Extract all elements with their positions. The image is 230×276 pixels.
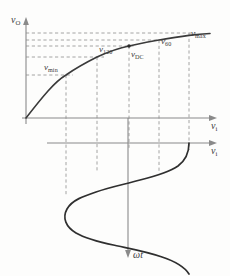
- y-axis-subscript: O: [15, 19, 20, 26]
- y-axis-label: vO: [11, 15, 20, 25]
- v120-subscript: 120: [103, 49, 112, 55]
- label-v60: v60: [161, 37, 171, 46]
- vmin-subscript: min: [48, 67, 58, 73]
- time-axis-group: [125, 118, 131, 258]
- mid-plot-axis: [47, 140, 217, 146]
- x-axis-mid-label: vi: [211, 146, 217, 156]
- figure-canvas: [0, 0, 230, 276]
- label-vdc: vDC: [131, 50, 144, 59]
- label-vmax: vmax: [191, 29, 206, 38]
- omega-t-symbol: ωt: [133, 249, 143, 260]
- v60-subscript: 60: [165, 41, 171, 47]
- omega-t-label: ωt: [133, 250, 143, 260]
- vmax-subscript: max: [195, 33, 206, 39]
- x-axis-top-label: vi: [211, 121, 217, 131]
- y-axis-arrowhead: [23, 17, 29, 25]
- transfer-characteristic-curve: [26, 34, 210, 119]
- label-v120: v120: [99, 45, 112, 54]
- vdc-subscript: DC: [135, 54, 144, 60]
- figure-container: vO vi vi ωt vmin v120 vDC v60 vmax: [0, 0, 230, 276]
- omega-t-arrowhead: [125, 250, 131, 258]
- label-vmin: vmin: [44, 63, 58, 72]
- vdc-point-marker: [127, 44, 130, 47]
